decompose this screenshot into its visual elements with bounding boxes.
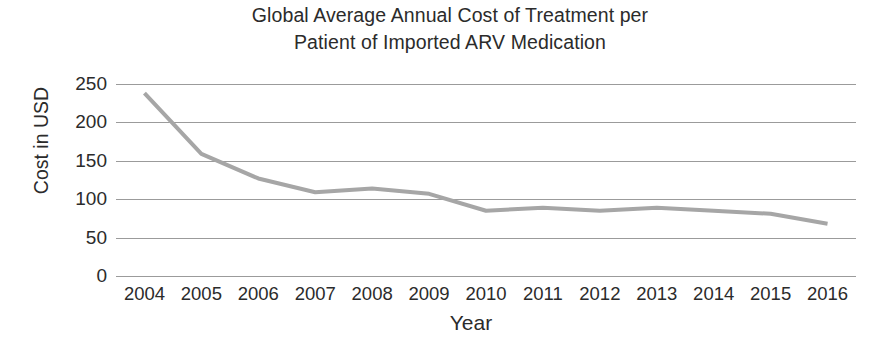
x-tick-label-2015: 2015 (741, 283, 801, 305)
x-tick-label-2005: 2005 (171, 283, 231, 305)
x-tick-label-2009: 2009 (399, 283, 459, 305)
x-tick-label-2011: 2011 (513, 283, 573, 305)
x-tick-label-2013: 2013 (627, 283, 687, 305)
y-axis-tick-labels: 050100150200250 (45, 84, 107, 276)
x-tick-label-2007: 2007 (285, 283, 345, 305)
chart-container: Global Average Annual Cost of Treatment … (0, 0, 896, 358)
chart-title-line-1: Global Average Annual Cost of Treatment … (140, 2, 760, 29)
x-axis-tick-labels: 2004200520062007200820092010201120122013… (116, 283, 856, 309)
x-tick-label-2004: 2004 (114, 283, 174, 305)
y-tick-label-100: 100 (47, 189, 107, 208)
x-tick-label-2008: 2008 (342, 283, 402, 305)
y-tick-label-150: 150 (47, 151, 107, 170)
y-tick-label-50: 50 (47, 228, 107, 247)
x-tick-label-2012: 2012 (570, 283, 630, 305)
y-tick-label-200: 200 (47, 112, 107, 131)
series-polyline (144, 93, 827, 224)
x-tick-label-2016: 2016 (798, 283, 858, 305)
chart-title-line-2: Patient of Imported ARV Medication (140, 29, 760, 56)
x-tick-label-2014: 2014 (684, 283, 744, 305)
x-tick-label-2006: 2006 (228, 283, 288, 305)
y-tick-label-0: 0 (47, 266, 107, 285)
series-line-cost-in-usd (116, 84, 856, 276)
x-axis-title: Year (406, 311, 536, 335)
gridline-0 (116, 276, 856, 277)
chart-title: Global Average Annual Cost of Treatment … (140, 2, 760, 56)
x-tick-label-2010: 2010 (456, 283, 516, 305)
plot-area (116, 84, 856, 276)
y-tick-label-250: 250 (47, 74, 107, 93)
